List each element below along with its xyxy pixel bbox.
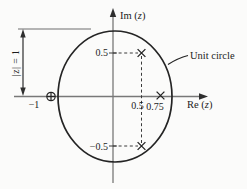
unit-circle-leader-line (168, 56, 188, 65)
tick-label-re-three-quarters: 0.75 (146, 101, 164, 112)
re-axis-label: Re (z) (187, 99, 213, 111)
radius-magnitude-label: |z| = 1 (11, 50, 21, 76)
pole-marker-lower (138, 142, 146, 150)
pole-marker-upper (138, 49, 146, 57)
unit-circle-diagram: |z| = 1 Im (z) Re (z) Unit circle −1 (0, 0, 247, 189)
tick-label-im-half: 0.5 (96, 47, 109, 58)
radius-double-arrow (20, 29, 25, 96)
unit-circle-label: Unit circle (190, 50, 235, 61)
im-axis-label: Im (z) (120, 10, 146, 22)
zero-marker-minus-one (47, 92, 55, 100)
complex-plane-figure: |z| = 1 Im (z) Re (z) Unit circle −1 (0, 0, 247, 189)
im-axis-arrowhead (110, 8, 116, 17)
pole-marker-real-axis (157, 92, 165, 100)
tick-label-re-half: 0.5 (131, 100, 144, 111)
tick-label-im-neg-half: −0.5 (90, 141, 108, 152)
im-axis (110, 8, 116, 183)
re-axis (14, 93, 208, 99)
tick-label-minus-one: −1 (29, 99, 40, 110)
